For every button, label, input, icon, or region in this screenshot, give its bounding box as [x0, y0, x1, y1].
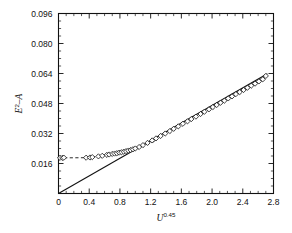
figure-container: 00.40.81.21.62.02.42.8 0.0160.0320.0480.…	[0, 0, 292, 233]
y-axis-title: E2–A	[13, 93, 24, 114]
axis-ticks	[59, 14, 274, 194]
y-tick-label: 0.032	[31, 129, 53, 139]
x-tick-label: 1.2	[145, 197, 157, 207]
x-tick-label: 0	[56, 197, 61, 207]
x-axis-title-exponent: 0.45	[163, 211, 176, 218]
x-tick-label: 0.8	[114, 197, 126, 207]
y-axis-title-suffix: –A	[14, 93, 24, 105]
y-tick-label: 0.080	[31, 39, 53, 49]
x-tick-label: 2.8	[268, 197, 280, 207]
x-tick-label: 2.0	[206, 197, 218, 207]
data-marker	[100, 153, 105, 158]
data-marker	[180, 121, 185, 126]
y-tick-label: 0.016	[31, 159, 53, 169]
y-tick-label: 0.048	[31, 99, 53, 109]
x-tick-label: 2.4	[237, 197, 249, 207]
y-tick-label: 0.064	[31, 69, 53, 79]
y-axis-tick-labels: 0.0160.0320.0480.0640.0800.096	[31, 9, 53, 169]
x-tick-label: 1.6	[175, 197, 187, 207]
data-marker	[193, 114, 198, 119]
x-axis-tick-labels: 00.40.81.21.62.02.42.8	[56, 197, 280, 207]
scatter-plot: 00.40.81.21.62.02.42.8 0.0160.0320.0480.…	[0, 0, 292, 233]
x-tick-label: 0.4	[83, 197, 95, 207]
plot-frame	[59, 14, 274, 194]
data-markers	[57, 73, 268, 160]
x-axis-title: U0.45	[157, 211, 176, 222]
y-tick-label: 0.096	[31, 9, 53, 19]
data-marker	[176, 124, 181, 129]
